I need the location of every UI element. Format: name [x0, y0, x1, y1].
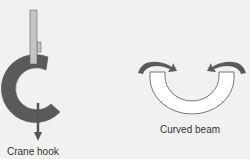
crane-hook-label: Crane hook: [7, 146, 59, 157]
hook-ring: [1, 55, 60, 123]
diagram-canvas: [0, 0, 250, 159]
curved-beam-label: Curved beam: [160, 124, 220, 135]
crane-hook-figure: [1, 10, 60, 141]
load-arrow-head-icon: [34, 132, 42, 141]
curved-beam-shape: [150, 72, 234, 114]
curved-beam-figure: [138, 62, 246, 114]
hook-block: [37, 42, 41, 52]
hook-shank: [30, 10, 37, 64]
